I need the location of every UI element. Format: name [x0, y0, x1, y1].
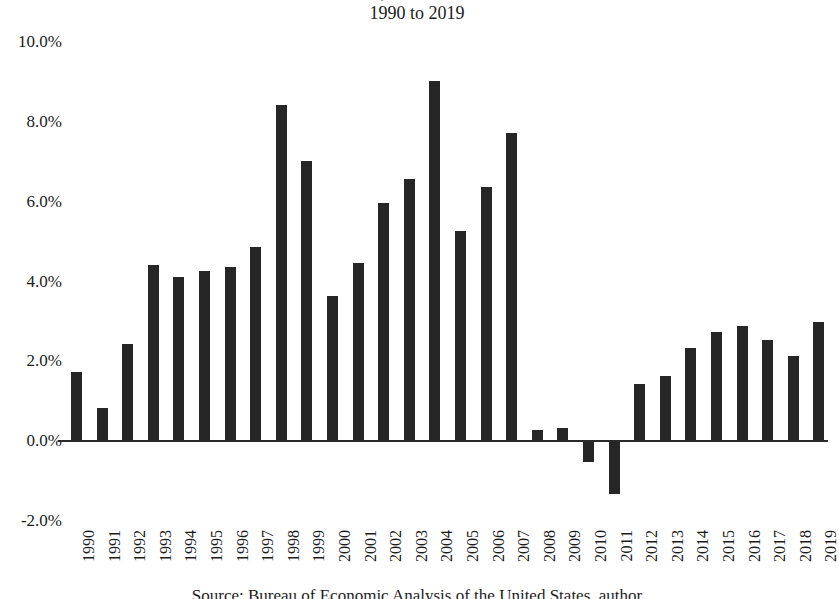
x-axis-tick-label: 2017 — [772, 530, 788, 562]
bar — [276, 105, 287, 440]
bar — [429, 81, 440, 440]
x-axis-tick-label: 1991 — [107, 530, 123, 562]
y-axis-tick-label: 0.0% — [0, 432, 62, 449]
bar — [660, 376, 671, 440]
x-axis-tick-label: 2016 — [747, 530, 763, 562]
x-axis-tick-label: 2009 — [567, 530, 583, 562]
x-axis-tick-label: 2018 — [798, 530, 814, 562]
x-axis-tick-label: 2015 — [721, 530, 737, 562]
y-axis-tick-label: 10.0% — [0, 33, 62, 50]
chart-subtitle: 1990 to 2019 — [0, 3, 834, 24]
bar — [199, 271, 210, 441]
x-axis-tick-label: 1993 — [158, 530, 174, 562]
bar — [711, 332, 722, 440]
x-axis-tick-label: 2003 — [414, 530, 430, 562]
bar — [378, 203, 389, 441]
bar — [737, 326, 748, 440]
bar — [404, 179, 415, 440]
bar — [788, 356, 799, 440]
x-axis-tick-label: 2006 — [491, 530, 507, 562]
x-axis-tick-label: 2002 — [388, 530, 404, 562]
bar — [762, 340, 773, 440]
bar — [481, 187, 492, 440]
x-axis-tick-label: 2014 — [695, 530, 711, 562]
x-axis-tick-label: 1998 — [286, 530, 302, 562]
bar — [609, 442, 620, 494]
x-axis-tick-label: 1992 — [132, 530, 148, 562]
y-axis-tick-label: -2.0% — [0, 512, 62, 529]
x-axis-tick-label: 2008 — [542, 530, 558, 562]
bar — [506, 133, 517, 440]
bar — [327, 296, 338, 440]
bar — [97, 408, 108, 440]
y-axis-tick-label: 8.0% — [0, 113, 62, 130]
bar — [813, 322, 824, 440]
x-axis-tick-label: 2019 — [823, 530, 839, 562]
y-axis-tick-label: 6.0% — [0, 193, 62, 210]
x-axis-tick-label: 2007 — [516, 530, 532, 562]
bar — [557, 428, 568, 440]
x-axis-tick-label: 1995 — [209, 530, 225, 562]
x-axis-tick-label: 1999 — [311, 530, 327, 562]
bar — [634, 384, 645, 440]
bar — [532, 430, 543, 440]
chart-caption: Source: Bureau of Economic Analysis of t… — [0, 586, 834, 599]
bar — [455, 231, 466, 441]
bar — [225, 267, 236, 441]
x-axis-tick-label: 2011 — [619, 530, 635, 561]
x-axis-tick-label: 1990 — [81, 530, 97, 562]
bar — [301, 161, 312, 440]
x-axis-tick-label: 2012 — [644, 530, 660, 562]
x-axis-tick-label: 2004 — [439, 530, 455, 562]
x-axis-tick-label: 1997 — [260, 530, 276, 562]
y-axis: 10.0%8.0%6.0%4.0%2.0%0.0%-2.0% — [0, 30, 62, 530]
bar — [250, 247, 261, 441]
x-axis: 1990199119921993199419951996199719981999… — [66, 530, 828, 590]
bar — [583, 442, 594, 462]
x-axis-tick-label: 2010 — [593, 530, 609, 562]
bar — [148, 265, 159, 441]
bar-series — [66, 30, 828, 530]
y-axis-tick-label: 2.0% — [0, 352, 62, 369]
bar — [685, 348, 696, 440]
x-axis-tick-label: 2000 — [337, 530, 353, 562]
bar — [71, 372, 82, 440]
x-axis-tick-label: 1996 — [235, 530, 251, 562]
bar — [122, 344, 133, 440]
bar — [353, 263, 364, 441]
x-axis-tick-label: 2001 — [363, 530, 379, 562]
x-axis-tick-label: 2005 — [465, 530, 481, 562]
x-axis-tick-label: 1994 — [183, 530, 199, 562]
bar — [173, 277, 184, 441]
x-axis-tick-label: 2013 — [670, 530, 686, 562]
chart-title-block: Annual Growth Rate, Real Gross Domestic … — [0, 0, 834, 24]
y-axis-tick-label: 4.0% — [0, 273, 62, 290]
plot-area — [66, 30, 828, 530]
